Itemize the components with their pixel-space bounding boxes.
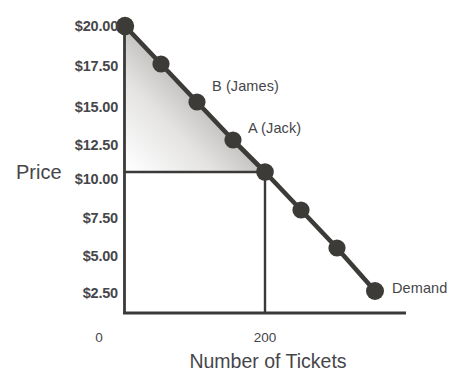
data-point-marker bbox=[292, 201, 309, 218]
y-axis-title: Price bbox=[16, 161, 62, 184]
data-point-marker bbox=[256, 163, 274, 181]
x-axis-title: Number of Tickets bbox=[148, 350, 388, 373]
y-tick-label-12-50: $12.50 bbox=[18, 137, 118, 153]
annotation-demand: Demand bbox=[392, 280, 447, 296]
data-point-marker bbox=[116, 17, 134, 35]
y-tick-label-2-50: $2.50 bbox=[18, 285, 118, 301]
y-tick-label-15: $15.00 bbox=[18, 99, 118, 115]
y-tick-label-5: $5.00 bbox=[18, 248, 118, 264]
data-point-marker bbox=[188, 93, 205, 110]
y-tick-label-7-50: $7.50 bbox=[18, 210, 118, 226]
demand-curve-chart: $20.00 $17.50 $15.00 $12.50 $10.00 $7.50… bbox=[0, 0, 468, 385]
x-tick-label-200: 200 bbox=[240, 330, 290, 345]
data-point-marker bbox=[152, 55, 169, 72]
x-tick-label-0: 0 bbox=[79, 330, 119, 345]
y-tick-label-17-50: $17.50 bbox=[18, 58, 118, 74]
data-point-marker bbox=[366, 282, 384, 300]
annotation-a-jack: A (Jack) bbox=[248, 120, 301, 136]
data-point-marker bbox=[328, 239, 345, 256]
revenue-rectangle bbox=[125, 172, 265, 313]
annotation-b-james: B (James) bbox=[212, 78, 279, 94]
y-tick-label-20: $20.00 bbox=[18, 18, 118, 34]
data-point-marker bbox=[224, 131, 241, 148]
